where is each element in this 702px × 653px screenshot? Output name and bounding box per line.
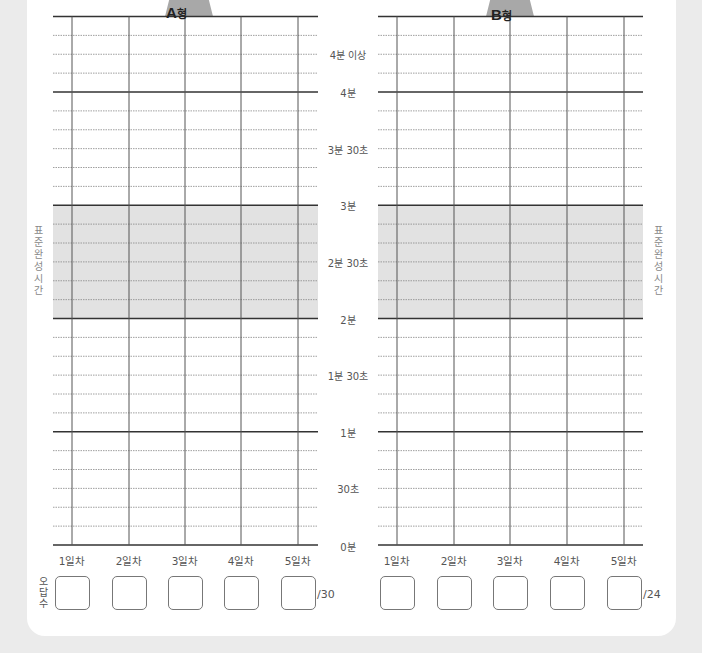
tab-b-suffix: 형 (502, 10, 512, 22)
time-axis-label: 30초 (313, 481, 383, 496)
time-axis-label: 2분 (313, 311, 383, 326)
chart-a-wrong-answer-box-day-3[interactable] (168, 576, 203, 610)
time-axis-label: 2분 30초 (313, 254, 383, 269)
chart-a-day-label: 4일차 (216, 553, 266, 568)
time-axis-label: 4분 (313, 85, 383, 100)
chart-a-wrong-answer-box-day-4[interactable] (224, 576, 259, 610)
tab-b-letter: B (491, 6, 502, 23)
chart-a-day-label: 2일차 (104, 553, 154, 568)
chart-b-day-label: 3일차 (485, 553, 535, 568)
wrong-answer-label: 오답수 (37, 576, 49, 609)
chart-b-tab-label: B형 (491, 6, 512, 23)
chart-b-wrong-answer-box-day-1[interactable] (380, 576, 415, 610)
chart-b-wrong-answer-box-day-4[interactable] (550, 576, 585, 610)
chart-b-day-label: 2일차 (429, 553, 479, 568)
standard-time-label-right: 표준완성시간 (652, 225, 664, 297)
chart-b-day-label: 4일차 (542, 553, 592, 568)
tab-a-suffix: 형 (177, 8, 187, 20)
chart-a-day-label: 3일차 (160, 553, 210, 568)
standard-time-label-left: 표준완성시간 (32, 225, 44, 297)
chart-b-day-label: 5일차 (599, 553, 649, 568)
tab-a-letter: A (166, 4, 177, 21)
time-axis-label: 3분 (313, 198, 383, 213)
chart-b-wrong-answer-box-day-5[interactable] (607, 576, 642, 610)
time-axis-label: 1분 (313, 424, 383, 439)
chart-a-wrong-answer-box-day-5[interactable] (281, 576, 316, 610)
chart-a-wrong-answer-box-day-1[interactable] (55, 576, 90, 610)
chart-a-wrong-answer-box-day-2[interactable] (112, 576, 147, 610)
chart-b-wrong-answer-box-day-3[interactable] (493, 576, 528, 610)
time-axis-label: 3분 30초 (313, 141, 383, 156)
chart-b-wrong-total: /24 (643, 588, 661, 601)
chart-a-wrong-total: /30 (317, 588, 335, 601)
chart-b-day-label: 1일차 (372, 553, 422, 568)
chart-a-tab-label: A형 (166, 4, 187, 21)
chart-a-day-label: 1일차 (47, 553, 97, 568)
chart-b-wrong-answer-box-day-2[interactable] (437, 576, 472, 610)
time-axis-label: 1분 30초 (313, 368, 383, 383)
time-axis-label: 0분 (313, 539, 383, 554)
chart-a-day-label: 5일차 (273, 553, 323, 568)
time-axis-label: 4분 이상 (313, 47, 383, 62)
